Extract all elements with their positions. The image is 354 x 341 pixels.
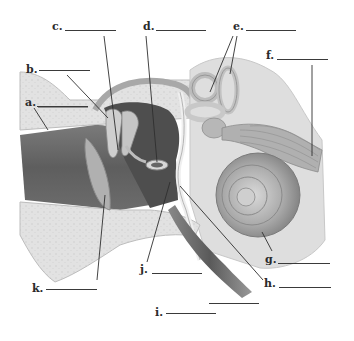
blank-i[interactable] — [166, 313, 216, 314]
label-i: i. — [155, 307, 163, 319]
label-j: j. — [140, 264, 148, 276]
label-d: d. — [143, 21, 155, 33]
blank-h[interactable] — [279, 287, 331, 288]
label-g: g. — [265, 254, 277, 266]
blank-k[interactable] — [46, 289, 97, 290]
blank-a[interactable] — [37, 106, 88, 107]
blank-f[interactable] — [277, 59, 328, 60]
label-h: h. — [264, 278, 276, 290]
blank-e[interactable] — [246, 30, 296, 31]
blank-c[interactable] — [65, 30, 116, 31]
blank-b[interactable] — [39, 70, 90, 71]
blank-g[interactable] — [278, 263, 330, 264]
ear-diagram: c. d. e. f. b. a. g. h. j. k. i. — [0, 0, 354, 341]
blank-d[interactable] — [156, 30, 206, 31]
label-f: f. — [266, 50, 274, 62]
label-k: k. — [32, 283, 43, 295]
blank-i-pointer — [209, 303, 259, 304]
label-b: b. — [26, 64, 38, 76]
label-e: e. — [233, 21, 244, 33]
blank-j[interactable] — [152, 273, 202, 274]
label-a: a. — [25, 97, 36, 109]
label-c: c. — [52, 21, 63, 33]
